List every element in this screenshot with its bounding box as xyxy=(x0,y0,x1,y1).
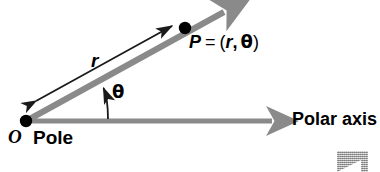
pole-label: Pole xyxy=(33,128,73,147)
angle-arc xyxy=(104,88,109,119)
terminal-ray-line xyxy=(26,12,224,121)
point-p-close-paren: ) xyxy=(253,33,259,51)
polar-axis-label: Polar axis xyxy=(292,110,377,128)
point-p-label: P = ( r , θ ) xyxy=(189,33,259,51)
watermark-wedge-icon xyxy=(337,160,361,172)
point-p-equals: = xyxy=(201,33,220,51)
radius-label: r xyxy=(91,51,98,70)
origin-label: O xyxy=(8,127,22,146)
polar-coordinate-diagram: O Pole r θ Polar axis P = ( r , θ ) xyxy=(0,0,380,172)
point-p-comma: , xyxy=(233,33,241,51)
point-p-name: P xyxy=(189,33,201,51)
watermark-thumbnail xyxy=(337,151,368,172)
point-p-radius: r xyxy=(226,33,233,51)
point-p-angle: θ xyxy=(241,33,253,51)
angle-theta-label: θ xyxy=(112,83,124,101)
